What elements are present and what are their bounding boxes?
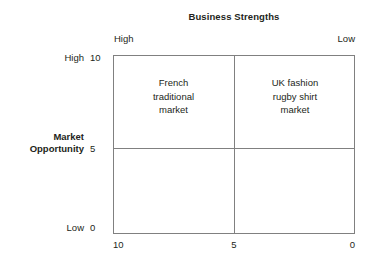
quadrant-tr-line3: market [235, 103, 355, 117]
quadrant-label-top-left: French traditional market [113, 76, 234, 117]
chart-title: Business Strengths [113, 11, 355, 23]
y-axis-title-line2: Opportunity [0, 143, 84, 155]
y-axis-low-label: Low [10, 222, 84, 234]
y-axis-tick-10: 10 [90, 52, 101, 64]
quadrant-tr-line1: UK fashion [235, 76, 355, 90]
quadrant-tl-line2: traditional [113, 90, 234, 104]
y-axis-high-label: High [10, 52, 84, 64]
x-axis-tick-5: 5 [222, 239, 246, 251]
y-axis-tick-5: 5 [90, 143, 95, 155]
quadrant-divider-horizontal [113, 148, 355, 149]
quadrant-label-top-right: UK fashion rugby shirt market [235, 76, 355, 117]
x-axis-high-label: High [114, 33, 134, 45]
y-axis-title-line1: Market [0, 131, 84, 143]
y-axis-title: Market Opportunity [0, 131, 84, 154]
matrix-chart-canvas: Business Strengths High Low French tradi… [0, 0, 376, 268]
x-axis-tick-10: 10 [113, 239, 137, 251]
quadrant-tr-line2: rugby shirt [235, 90, 355, 104]
y-axis-tick-0: 0 [90, 222, 95, 234]
quadrant-tl-line1: French [113, 76, 234, 90]
x-axis-tick-0: 0 [331, 239, 355, 251]
quadrant-tl-line3: market [113, 103, 234, 117]
x-axis-low-label: Low [255, 33, 355, 45]
